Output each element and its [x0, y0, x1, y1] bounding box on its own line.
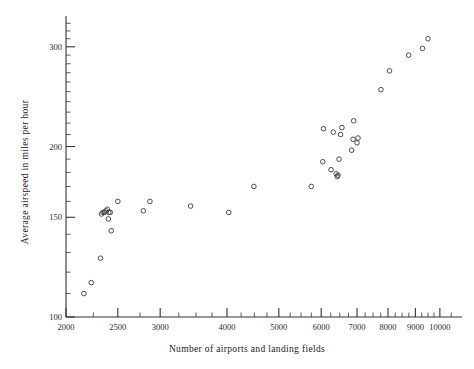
data-point	[98, 256, 103, 261]
y-tick-label: 200	[49, 142, 62, 152]
y-tick-label: 100	[49, 312, 62, 322]
data-point	[406, 53, 411, 58]
data-points	[82, 36, 431, 295]
data-point	[426, 36, 431, 41]
data-point	[337, 157, 342, 162]
x-tick-label: 8000	[380, 322, 397, 332]
data-point	[320, 159, 325, 164]
data-point	[355, 141, 360, 146]
x-tick-label: 7000	[349, 322, 366, 332]
data-point	[116, 199, 121, 204]
data-point	[109, 228, 114, 233]
data-point	[106, 217, 111, 222]
scatter-plot-canvas: 100150200300 200025003000400050006000700…	[0, 0, 474, 369]
x-tick-label: 10000	[429, 322, 450, 332]
data-point	[349, 148, 354, 153]
x-tick-label: 3000	[152, 322, 169, 332]
data-point	[420, 46, 425, 51]
scatter-plot-figure: 100150200300 200025003000400050006000700…	[0, 0, 474, 369]
x-axis: 2000250030004000500060007000800090001000…	[58, 308, 463, 332]
data-point	[226, 210, 231, 215]
data-point	[351, 137, 356, 142]
x-tick-label: 5000	[270, 322, 287, 332]
data-point	[188, 204, 193, 209]
data-point	[309, 184, 314, 189]
y-axis: 100150200300	[49, 16, 75, 322]
data-point	[252, 184, 257, 189]
data-point	[340, 125, 345, 130]
data-point	[338, 132, 343, 137]
y-tick-label: 150	[49, 212, 62, 222]
data-point	[141, 209, 146, 214]
data-point	[379, 87, 384, 92]
y-tick-label: 300	[49, 42, 62, 52]
x-tick-label: 2000	[58, 322, 75, 332]
data-point	[89, 280, 94, 285]
data-point	[356, 136, 361, 141]
data-point	[387, 69, 392, 74]
x-axis-title: Number of airports and landing fields	[169, 344, 325, 354]
data-point	[321, 126, 326, 131]
x-tick-label: 4000	[219, 322, 236, 332]
y-axis-title: Average airspeed in miles per hour	[20, 99, 30, 244]
x-tick-label: 9000	[407, 322, 424, 332]
data-point	[148, 199, 153, 204]
data-point	[329, 167, 334, 172]
x-tick-label: 6000	[313, 322, 330, 332]
data-point	[331, 130, 336, 135]
data-point	[351, 119, 356, 124]
x-tick-label: 2500	[109, 322, 126, 332]
data-point	[82, 291, 87, 296]
